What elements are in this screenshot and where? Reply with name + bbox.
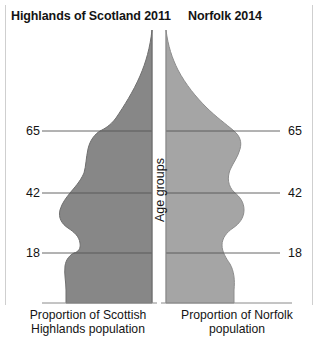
left-axis-caption: Proportion of Scottish Highlands populat…: [14, 308, 162, 336]
tick-right-65: 65: [288, 124, 314, 138]
left-population-area: [59, 30, 152, 303]
population-pyramid-figure: Highlands of Scotland 2011 Norfolk 2014: [0, 0, 318, 348]
tick-left-42: 42: [14, 186, 40, 200]
right-population-area: [166, 30, 244, 303]
tick-left-18: 18: [14, 246, 40, 260]
plot-area: [0, 0, 318, 348]
tick-left-65: 65: [14, 124, 40, 138]
right-axis-caption: Proportion of Norfolk population: [166, 308, 308, 336]
tick-right-42: 42: [288, 186, 314, 200]
tick-right-18: 18: [288, 246, 314, 260]
